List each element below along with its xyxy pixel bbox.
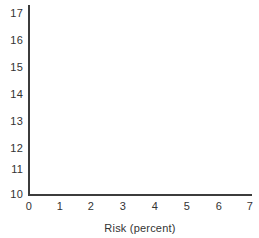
x-axis-line (28, 194, 252, 196)
y-tick-label: 17 (0, 8, 23, 19)
y-tick-label: 16 (0, 35, 23, 46)
chart-figure: 17 16 15 14 13 12 11 10 0 1 2 3 4 5 6 7 … (0, 0, 259, 238)
x-tick-label: 2 (88, 201, 94, 212)
x-tick-label: 6 (216, 201, 222, 212)
x-tick-label: 4 (152, 201, 158, 212)
y-tick-label: 15 (0, 62, 23, 73)
y-axis-line (28, 5, 30, 196)
x-tick-label: 0 (26, 201, 32, 212)
y-tick-label: 10 (0, 189, 23, 200)
plot-area (28, 5, 252, 195)
x-tick-label: 3 (120, 201, 126, 212)
x-axis-tick-labels: 0 1 2 3 4 5 6 7 (0, 201, 259, 215)
y-tick-label: 14 (0, 89, 23, 100)
x-tick-label: 7 (247, 201, 253, 212)
y-tick-label: 13 (0, 116, 23, 127)
x-tick-label: 1 (57, 201, 63, 212)
x-tick-label: 5 (184, 201, 190, 212)
x-axis-title: Risk (percent) (28, 222, 252, 234)
y-tick-label: 11 (0, 164, 23, 175)
y-tick-label: 12 (0, 143, 23, 154)
